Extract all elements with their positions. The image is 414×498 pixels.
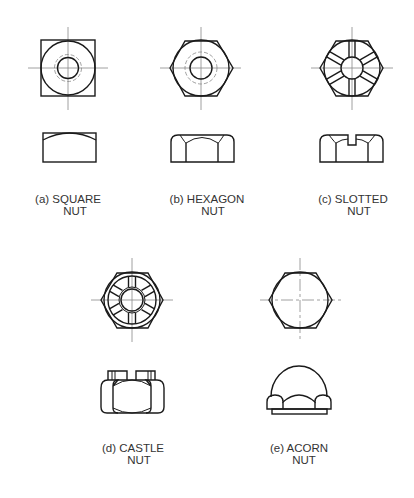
acorn-nut-top-view [260, 258, 341, 342]
caption-line2: NUT [94, 454, 172, 466]
caption-square-nut: (a) SQUARE NUT [27, 193, 109, 217]
caption-hexagon-nut: (b) HEXAGON NUT [165, 193, 249, 217]
caption-line2: NUT [262, 454, 336, 466]
acorn-nut-side-view [267, 366, 331, 414]
caption-castle-nut: (d) CASTLE NUT [94, 442, 172, 466]
castle-nut-top-view [91, 258, 173, 342]
castle-nut-side-view [101, 371, 164, 413]
slotted-nut-side-view [320, 135, 383, 162]
caption-acorn-nut: (e) ACORN NUT [262, 442, 336, 466]
caption-line2: NUT [27, 205, 109, 217]
caption-line1: (d) CASTLE [94, 442, 172, 454]
hexagon-nut-top-view [160, 27, 241, 110]
caption-line2: NUT [313, 205, 393, 217]
slotted-nut-top-view [311, 27, 393, 110]
caption-line1: (c) SLOTTED [313, 193, 393, 205]
caption-slotted-nut: (c) SLOTTED NUT [313, 193, 393, 217]
square-nut-top-view [28, 27, 108, 110]
hexagon-nut-side-view [171, 135, 234, 162]
square-nut-side-view [43, 133, 96, 162]
caption-line2: NUT [165, 205, 249, 217]
caption-line1: (b) HEXAGON [165, 193, 249, 205]
nut-types-diagram [0, 0, 414, 498]
caption-line1: (e) ACORN [262, 442, 336, 454]
caption-line1: (a) SQUARE [27, 193, 109, 205]
